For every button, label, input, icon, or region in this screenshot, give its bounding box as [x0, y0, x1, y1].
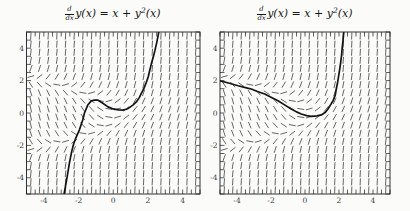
solution-curve — [220, 29, 344, 117]
x-tick-label: 4 — [371, 196, 376, 205]
x-tick-label: 2 — [146, 196, 151, 205]
y-tick-label: 2 — [19, 76, 24, 85]
plot-frame — [27, 32, 201, 194]
plot-frame — [220, 32, 390, 194]
y-tick-label: 2 — [213, 76, 218, 85]
x-tick-label: -2 — [267, 196, 275, 205]
figure-stage: ddxy(x) = x + y2(x) ddxy(x) = x + y2(x) … — [0, 0, 410, 211]
direction-field-plot-right: -4-2024-4-2024 — [205, 0, 410, 211]
y-tick-label: 0 — [19, 109, 24, 118]
direction-field-plot-left: -4-2024-4-2024 — [0, 0, 205, 211]
x-tick-label: 0 — [303, 196, 308, 205]
slope-field — [27, 33, 196, 194]
y-tick-label: -4 — [17, 173, 25, 182]
axis-tick-labels: -4-2024-4-2024 — [17, 44, 186, 205]
x-tick-label: 2 — [337, 196, 342, 205]
solution-curve — [64, 30, 159, 196]
x-tick-label: -4 — [40, 196, 48, 205]
x-tick-label: 4 — [180, 196, 185, 205]
y-tick-label: -2 — [17, 141, 25, 150]
y-tick-label: -4 — [210, 173, 218, 182]
y-tick-label: 4 — [213, 44, 218, 53]
x-tick-label: -4 — [233, 196, 241, 205]
axis-tick-labels: -4-2024-4-2024 — [210, 44, 375, 205]
slope-field — [221, 33, 387, 194]
x-tick-label: -2 — [75, 196, 83, 205]
y-tick-label: -2 — [210, 141, 218, 150]
y-tick-label: 0 — [213, 109, 218, 118]
figure-page: { "page": { "background": "#fbfbfa" }, "… — [0, 0, 410, 211]
axis-ticks — [220, 32, 390, 194]
axis-ticks — [27, 32, 201, 194]
x-tick-label: 0 — [111, 196, 116, 205]
y-tick-label: 4 — [19, 44, 24, 53]
